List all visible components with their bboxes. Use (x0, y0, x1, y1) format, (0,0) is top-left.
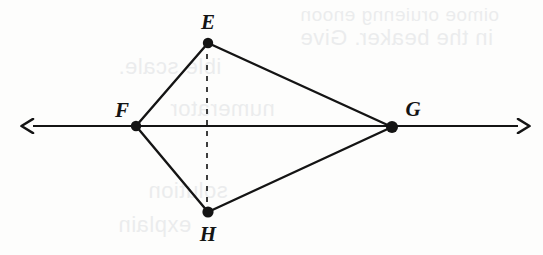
vertex-label-H: H (200, 224, 216, 245)
vertex-point-E (203, 38, 213, 48)
vertex-label-F: F (115, 100, 129, 121)
segment-HG (208, 127, 392, 212)
segment-FH (136, 126, 208, 212)
vertex-point-G (386, 121, 398, 133)
geometry-figure (0, 0, 543, 255)
vertex-label-E: E (201, 12, 215, 33)
vertex-point-F (131, 121, 141, 131)
vertex-point-H (202, 206, 213, 217)
segment-FE (136, 43, 208, 126)
figure-page: oimoe oruienng enoon in the beaker. Give… (0, 0, 543, 255)
vertex-label-G: G (405, 99, 420, 120)
segment-EG (208, 43, 392, 127)
